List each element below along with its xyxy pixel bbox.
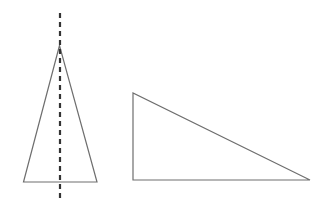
figure-canvas: [0, 0, 320, 209]
canvas-background: [0, 0, 320, 209]
geometry-figure-svg: [0, 0, 320, 209]
